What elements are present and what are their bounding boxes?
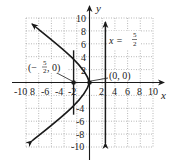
svg-text:-4: -4 [55,86,63,97]
graph-canvas: x y -10 8 -6 -4 -2 2 4 6 8 10 10 8 6 4 2… [0,0,171,167]
svg-text:(−: (− [28,62,37,74]
svg-text:, 0): , 0) [47,62,60,74]
svg-text:-8: -8 [76,129,84,140]
y-axis-label: y [95,2,101,14]
svg-text:10: 10 [148,86,158,97]
svg-text:10: 10 [76,13,86,24]
svg-text:-6: -6 [41,86,49,97]
svg-text:6: 6 [125,86,130,97]
svg-text:6: 6 [81,39,86,50]
svg-text:8: 8 [30,86,35,97]
svg-text:-4: -4 [76,103,84,114]
svg-text:4: 4 [112,86,117,97]
vertex-label: (0, 0) [108,70,135,82]
svg-text:8: 8 [137,86,142,97]
svg-text:2: 2 [99,86,104,97]
focus-label: (− 5 2 , 0) [28,59,68,75]
svg-text:x =: x = [108,35,123,46]
x-axis-label: x [160,89,166,101]
focus-leader-line [55,72,72,81]
svg-text:-2: -2 [68,86,76,97]
svg-text:-10: -10 [14,86,27,97]
svg-text:5: 5 [133,31,137,39]
svg-text:8: 8 [81,26,86,37]
svg-text:-6: -6 [76,116,84,127]
directrix-label: x = 5 2 [108,31,141,49]
svg-text:4: 4 [81,52,86,63]
svg-text:(0, 0): (0, 0) [109,70,131,82]
svg-text:2: 2 [133,40,137,48]
svg-text:-10: -10 [71,141,84,152]
